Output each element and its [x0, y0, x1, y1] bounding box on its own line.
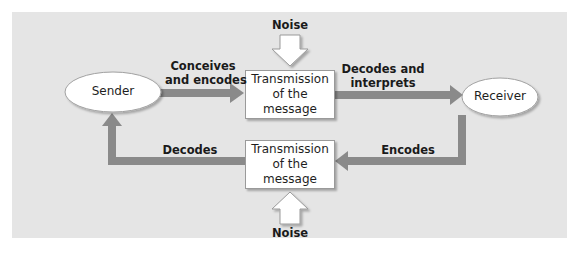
transmission-bottom-line2: of the message [263, 157, 317, 186]
noise-arrow-up-icon [272, 192, 308, 224]
noise-arrow-down-icon [272, 35, 308, 66]
transmission-top-line1: Transmission [251, 72, 329, 86]
sender-label: Sender [65, 84, 161, 99]
label-decodes-and-interprets: Decodes and interprets [340, 62, 426, 90]
label-conceives-and-encodes: Conceives and encodes [165, 59, 241, 87]
transmission-box-top: Transmission of the message [245, 70, 335, 119]
label-conceives-line2: and encodes [165, 73, 247, 87]
label-encodes: Encodes [368, 143, 448, 157]
label-conceives-line1: Conceives [170, 59, 235, 73]
label-decodes-interprets-line2: interprets [350, 76, 415, 90]
diagram-connectors [0, 0, 580, 253]
noise-label-top: Noise [260, 18, 320, 32]
receiver-label: Receiver [462, 89, 538, 104]
transmission-top-line2: of the message [263, 87, 317, 116]
label-decodes-interprets-line1: Decodes and [341, 62, 424, 76]
transmission-bottom-line1: Transmission [251, 142, 329, 156]
arrow-decodes [102, 113, 245, 165]
label-decodes: Decodes [150, 143, 230, 157]
transmission-box-bottom: Transmission of the message [245, 140, 335, 189]
noise-label-bottom: Noise [260, 226, 320, 240]
